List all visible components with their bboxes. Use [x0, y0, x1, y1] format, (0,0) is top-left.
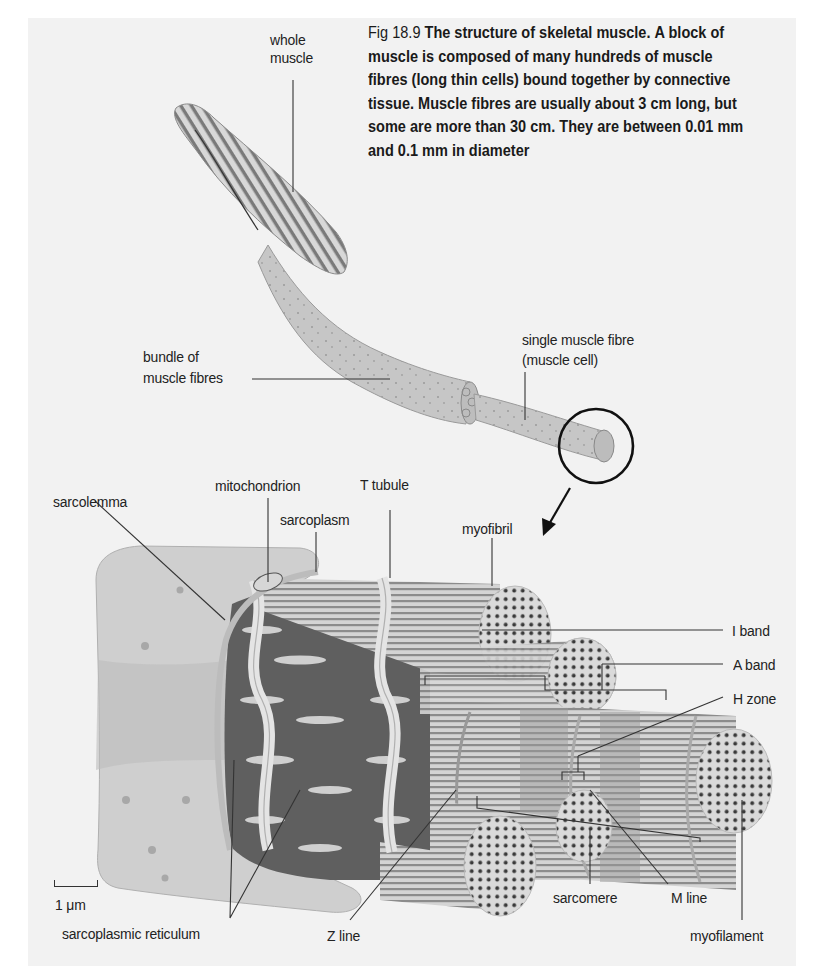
label-i-band: I band — [732, 621, 770, 640]
label-sarcolemma: sarcolemma — [53, 492, 127, 511]
label-bundle-line1: bundle of — [143, 347, 199, 366]
figure-description: A block of muscle is composed of many hu… — [368, 23, 743, 159]
whole-muscle-illustration — [175, 104, 633, 536]
scale-bar — [54, 880, 98, 887]
label-whole-muscle-line2: muscle — [270, 48, 313, 67]
label-t-tubule: T tubule — [360, 475, 409, 494]
label-bundle-line2: muscle fibres — [143, 368, 223, 387]
label-sarcoplasm: sarcoplasm — [280, 510, 350, 529]
figure-title: The structure of skeletal muscle. — [425, 23, 651, 41]
label-whole-muscle-line1: whole — [270, 30, 306, 49]
label-single-fibre-line2: (muscle cell) — [522, 350, 598, 369]
label-z-line: Z line — [327, 926, 360, 945]
label-sarcoplasmic-reticulum: sarcoplasmic reticulum — [62, 924, 200, 943]
label-single-fibre-line1: single muscle fibre — [522, 330, 634, 349]
label-myofilament: myofilament — [690, 926, 763, 945]
label-myofibril: myofibril — [462, 519, 512, 538]
figure-caption: Fig 18.9 The structure of skeletal muscl… — [368, 21, 755, 162]
label-a-band: A band — [733, 655, 775, 674]
figure-number: Fig 18.9 — [368, 23, 420, 41]
label-h-zone: H zone — [733, 689, 776, 708]
scale-bar-label: 1 μm — [55, 895, 86, 914]
label-sarcomere: sarcomere — [553, 888, 617, 907]
muscle-fibre-block — [96, 546, 772, 916]
label-m-line: M line — [671, 888, 707, 907]
label-mitochondrion: mitochondrion — [215, 476, 300, 495]
